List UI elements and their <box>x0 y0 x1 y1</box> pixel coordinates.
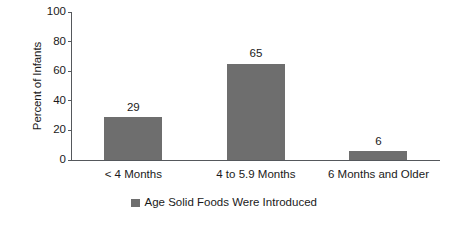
y-tick-label-100: 100 <box>40 6 66 18</box>
y-tick-label-80: 80 <box>40 36 66 48</box>
legend-item[interactable]: Age Solid Foods Were Introduced <box>131 197 317 209</box>
y-tick-20: 20 <box>40 130 72 131</box>
x-axis-category-labels: < 4 Months 4 to 5.9 Months 6 Months and … <box>72 168 440 186</box>
legend-label: Age Solid Foods Were Introduced <box>145 197 317 209</box>
chart-legend: Age Solid Foods Were Introduced <box>0 197 462 209</box>
y-tick-label-60: 60 <box>40 65 66 77</box>
y-tick-0: 0 <box>40 160 72 161</box>
bar-1[interactable] <box>227 64 285 160</box>
plot-area: 29 65 6 <box>72 12 440 160</box>
bar-chart: Percent of Infants 100 80 60 40 20 0 <box>0 0 462 226</box>
bar-0[interactable] <box>104 117 162 160</box>
y-tick-60: 60 <box>40 71 72 72</box>
bar-value-1: 65 <box>249 48 262 60</box>
legend-swatch-icon <box>131 199 140 208</box>
y-tick-80: 80 <box>40 42 72 43</box>
y-tick-100: 100 <box>40 12 72 13</box>
bar-group-2: 6 <box>317 12 440 160</box>
category-label-1: 4 to 5.9 Months <box>195 168 318 182</box>
category-label-0: < 4 Months <box>72 168 195 182</box>
x-axis-line <box>71 160 440 161</box>
bar-value-0: 29 <box>127 102 140 114</box>
y-axis-ticks: 100 80 60 40 20 0 <box>40 0 72 226</box>
bar-group-1: 65 <box>195 12 318 160</box>
y-tick-40: 40 <box>40 101 72 102</box>
bar-2[interactable] <box>349 151 407 160</box>
y-tick-label-20: 20 <box>40 124 66 136</box>
bar-group-0: 29 <box>72 12 195 160</box>
category-label-2: 6 Months and Older <box>317 168 440 182</box>
y-tick-label-40: 40 <box>40 95 66 107</box>
bar-value-2: 6 <box>375 136 381 148</box>
y-tick-label-0: 0 <box>40 154 66 166</box>
